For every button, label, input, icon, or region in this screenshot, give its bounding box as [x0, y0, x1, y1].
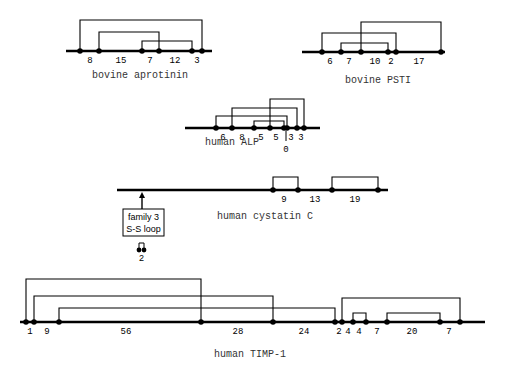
- cysteine-dot: [96, 48, 102, 54]
- residue-spacing-label: 3: [298, 133, 303, 143]
- residue-spacing-label: 5: [273, 133, 278, 143]
- cysteine-dot: [251, 125, 257, 131]
- protein-name-label: human ALP: [205, 137, 259, 148]
- cysteine-dot: [270, 319, 276, 325]
- diagram-human-timp-1: 195628242447207human TIMP-1: [20, 279, 485, 360]
- residue-spacing-label: 56: [121, 327, 132, 337]
- disulfide-bridge: [342, 298, 460, 322]
- cysteine-dot: [384, 319, 390, 325]
- cysteine-dot: [438, 49, 444, 55]
- residue-spacing-label: 4: [345, 327, 350, 337]
- residue-spacing-label: 2: [336, 327, 341, 337]
- residue-spacing-label: 20: [407, 327, 418, 337]
- residue-spacing-label: 6: [327, 57, 332, 67]
- cysteine-dot: [457, 319, 463, 325]
- cysteine-dot: [301, 125, 307, 131]
- diagram-bovine-psti: 6710217bovine PSTI: [302, 22, 445, 86]
- disulfide-bridge: [341, 43, 388, 52]
- diagram-human-alp: 685533human ALP0: [185, 99, 320, 155]
- disulfide-bridge: [142, 41, 192, 51]
- cysteine-dot: [375, 187, 381, 193]
- cysteine-dot: [77, 48, 83, 54]
- residue-spacing-label: 2: [388, 57, 393, 67]
- disulfide-bridge: [273, 177, 298, 190]
- residue-spacing-label: 8: [87, 56, 92, 66]
- protein-name-label: human TIMP-1: [214, 349, 286, 360]
- annotation-line-1: family 3: [128, 212, 159, 222]
- protein-name-label: bovine PSTI: [345, 75, 411, 86]
- cysteine-dot: [199, 48, 205, 54]
- residue-spacing-label: 7: [346, 57, 351, 67]
- disulfide-bridge: [80, 20, 202, 51]
- residue-spacing-label: 24: [299, 327, 310, 337]
- residue-spacing-label: 15: [116, 56, 127, 66]
- cysteine-dot: [385, 49, 391, 55]
- residue-spacing-label: 17: [414, 57, 425, 67]
- zero-spacing-label: 0: [283, 145, 288, 155]
- residue-spacing-label: 12: [170, 56, 181, 66]
- cysteine-dot: [332, 319, 338, 325]
- cysteine-dot: [319, 49, 325, 55]
- disulfide-bridge: [387, 313, 440, 322]
- cysteine-dot: [137, 248, 142, 253]
- cysteine-dot: [339, 319, 345, 325]
- cysteine-dot: [295, 187, 301, 193]
- residue-spacing-label: 7: [374, 327, 379, 337]
- disulfide-bridge-diagram: 8157123bovine aprotinin6710217bovine PST…: [0, 0, 509, 374]
- cysteine-dot: [267, 125, 273, 131]
- disulfide-bridge: [332, 177, 378, 190]
- cysteine-dot: [198, 319, 204, 325]
- diagram-bovine-aprotinin: 8157123bovine aprotinin: [66, 20, 212, 81]
- protein-name-label: human cystatin C: [217, 211, 313, 222]
- arrowhead-icon: [139, 192, 145, 198]
- residue-spacing-label: 28: [233, 327, 244, 337]
- cysteine-dot: [284, 125, 290, 131]
- disulfide-bridge: [361, 22, 441, 52]
- disulfide-bridge: [216, 116, 287, 128]
- residue-spacing-label: 4: [356, 327, 361, 337]
- disulfide-bridge: [59, 308, 335, 322]
- protein-name-label: bovine aprotinin: [92, 70, 188, 81]
- residue-spacing-label: 3: [194, 56, 199, 66]
- residue-spacing-label: 10: [370, 57, 381, 67]
- cysteine-dot: [363, 319, 369, 325]
- residue-spacing-label: 19: [350, 195, 361, 205]
- cysteine-dot: [350, 319, 356, 325]
- residue-spacing-label: 13: [310, 195, 321, 205]
- cysteine-dot: [23, 319, 29, 325]
- cysteine-dot: [393, 49, 399, 55]
- residue-spacing-label: 5: [258, 133, 263, 143]
- residue-spacing-label: 7: [446, 327, 451, 337]
- residue-spacing-label: 1: [27, 327, 32, 337]
- cysteine-dot: [270, 187, 276, 193]
- cysteine-dot: [229, 125, 235, 131]
- cysteine-dot: [142, 248, 147, 253]
- cysteine-dot: [329, 187, 335, 193]
- residue-spacing-label: 9: [44, 327, 49, 337]
- residue-spacing-label: 7: [147, 56, 152, 66]
- cysteine-dot: [437, 319, 443, 325]
- disulfide-bridge: [34, 296, 273, 322]
- cysteine-dot: [358, 49, 364, 55]
- residue-spacing-label: 3: [288, 133, 293, 143]
- cysteine-dot: [189, 48, 195, 54]
- cysteine-dot: [56, 319, 62, 325]
- residue-spacing-label: 9: [281, 195, 286, 205]
- cysteine-dot: [338, 49, 344, 55]
- cysteine-dot: [213, 125, 219, 131]
- cysteine-dot: [31, 319, 37, 325]
- mini-loop-spacing-label: 2: [139, 253, 144, 263]
- cysteine-dot: [139, 48, 145, 54]
- cysteine-dot: [156, 48, 162, 54]
- diagram-human-cystatin-c: 91319human cystatin Cfamily 3S-S loop2: [117, 177, 388, 263]
- cysteine-dot: [294, 125, 300, 131]
- disulfide-bridge: [26, 279, 201, 322]
- annotation-line-2: S-S loop: [126, 224, 161, 234]
